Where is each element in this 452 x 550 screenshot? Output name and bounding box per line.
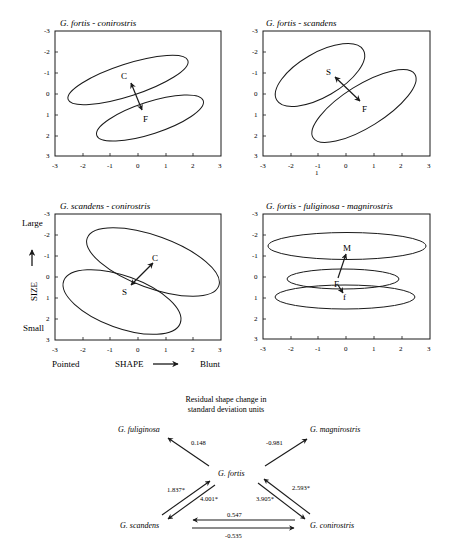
svg-text:-3: -3 — [44, 210, 50, 218]
plot-frame — [263, 31, 430, 156]
marker-label-f: F — [143, 114, 148, 124]
svg-text:1: 1 — [46, 111, 50, 119]
species-fortis: G. fortis — [218, 469, 245, 478]
svg-text:3: 3 — [254, 152, 258, 160]
svg-text:-3: -3 — [252, 210, 258, 218]
svg-text:-3: -3 — [52, 346, 58, 354]
panel-scandens-conirostris: G. scandens - conirostris -3 -2 -1 0 1 2… — [22, 0, 228, 369]
plot-frame — [55, 214, 221, 340]
svg-text:-1: -1 — [107, 346, 113, 354]
marker-label-s: S — [326, 67, 331, 77]
marker-label-f: F — [362, 104, 367, 114]
diagram-title-line2: standard deviation units — [188, 405, 264, 414]
y-axis-ticks: -3 -2 -1 0 1 2 3 — [252, 27, 258, 160]
svg-text:3: 3 — [254, 335, 258, 343]
value-fortis-scandens: 4.001* — [200, 495, 218, 502]
species-conirostris: G. conirostris — [310, 521, 354, 530]
panel-fortis-conirostris: G. fortis - conirostris -3 -2 -1 0 1 2 3… — [44, 18, 222, 170]
svg-text:-1: -1 — [315, 345, 321, 353]
svg-text:0: 0 — [46, 273, 50, 281]
svg-text:0: 0 — [46, 90, 50, 98]
shift-arrow-to-m — [338, 254, 346, 278]
y-axis-ticks: -3 -2 -1 0 1 2 3 — [252, 210, 258, 343]
panel-fortis-fuliginosa-magnirostris: G. fortis - fuliginosa - magnirostris -3… — [252, 201, 431, 353]
value-fortis-conirostris: 3.905* — [256, 495, 274, 502]
svg-text:1: 1 — [372, 345, 376, 353]
svg-text:1: 1 — [164, 162, 168, 170]
shape-change-diagram: Residual shape change in standard deviat… — [118, 395, 360, 539]
species-fuliginosa: G. fuliginosa — [118, 425, 160, 434]
svg-text:0: 0 — [136, 162, 140, 170]
y-axis-ticks: -3 -2 -1 0 1 2 3 — [44, 210, 50, 344]
svg-text:-2: -2 — [252, 48, 258, 56]
svg-text:3: 3 — [218, 346, 222, 354]
svg-text:-3: -3 — [52, 162, 58, 170]
svg-text:3: 3 — [427, 345, 431, 353]
value-scandens-fortis: 1.837* — [167, 486, 185, 493]
svg-text:1: 1 — [372, 162, 376, 170]
y-label-small: Small — [23, 323, 45, 333]
svg-text:-1: -1 — [252, 69, 258, 77]
svg-text:0: 0 — [344, 162, 348, 170]
svg-text:-2: -2 — [44, 48, 50, 56]
ellipse-fortis — [287, 269, 399, 289]
svg-text:-1: -1 — [107, 162, 113, 170]
ellipse-conirostris — [63, 45, 193, 114]
svg-text:3: 3 — [46, 152, 50, 160]
svg-text:3: 3 — [46, 336, 50, 344]
figure: G. fortis - conirostris -3 -2 -1 0 1 2 3… — [0, 0, 452, 550]
svg-text:-2: -2 — [252, 231, 258, 239]
svg-text:2: 2 — [399, 345, 403, 353]
svg-text:0: 0 — [344, 345, 348, 353]
svg-text:3: 3 — [427, 162, 431, 170]
svg-text:-1: -1 — [252, 252, 258, 260]
svg-text:-2: -2 — [80, 346, 86, 354]
svg-text:0: 0 — [136, 346, 140, 354]
x-axis-ticks: -3 -2 -1 0 1 2 3 — [52, 162, 222, 170]
y-axis-title: SIZE — [29, 282, 39, 302]
svg-text:-2: -2 — [288, 345, 294, 353]
svg-text:2: 2 — [254, 132, 258, 140]
svg-text:-3: -3 — [252, 27, 258, 35]
panel-title: G. fortis - conirostris — [60, 18, 137, 28]
ellipse-scandens — [55, 256, 189, 347]
species-scandens: G. scandens — [120, 521, 159, 530]
value-conirostris-scandens: 0.547 — [227, 511, 242, 518]
svg-text:1: 1 — [164, 346, 168, 354]
marker-label-fortis: F — [334, 279, 339, 289]
species-magnirostris: G. magnirostris — [310, 425, 360, 434]
svg-text:2: 2 — [46, 132, 50, 140]
marker-label-fuliginosa: f — [343, 292, 346, 302]
x-axis-ticks: -3 -2 -1 0 1 2 3 1 — [260, 162, 431, 177]
svg-text:2: 2 — [191, 346, 195, 354]
x-label-blunt: Blunt — [200, 359, 221, 369]
svg-text:0: 0 — [254, 90, 258, 98]
panel-title: G. scandens - conirostris — [60, 201, 151, 211]
svg-text:2: 2 — [46, 315, 50, 323]
svg-text:-2: -2 — [288, 162, 294, 170]
panel-fortis-scandens: G. fortis - scandens -3 -2 -1 0 1 2 3 -3… — [252, 18, 431, 177]
svg-text:2: 2 — [191, 162, 195, 170]
svg-text:-3: -3 — [260, 345, 266, 353]
ellipse-scandens — [266, 31, 375, 119]
x-axis-title: SHAPE — [115, 359, 144, 369]
svg-text:-3: -3 — [260, 162, 266, 170]
svg-text:-2: -2 — [80, 162, 86, 170]
svg-text:-3: -3 — [44, 27, 50, 35]
value-conirostris-fortis: 2.593* — [292, 484, 310, 491]
svg-text:1: 1 — [254, 294, 258, 302]
y-axis-ticks: -3 -2 -1 0 1 2 3 — [44, 27, 50, 160]
svg-text:-2: -2 — [44, 231, 50, 239]
value-scandens-conirostris: -0.535 — [225, 532, 242, 539]
value-fortis-magnirostris: -0.981 — [266, 439, 283, 446]
ellipse-fortis — [92, 85, 208, 150]
value-fortis-fuliginosa: 0.148 — [191, 439, 206, 446]
svg-text:2: 2 — [399, 162, 403, 170]
svg-text:0: 0 — [254, 273, 258, 281]
svg-text:1: 1 — [46, 294, 50, 302]
marker-label-c: C — [152, 253, 158, 263]
marker-label-s: S — [122, 287, 127, 297]
y-label-large: Large — [22, 218, 43, 228]
svg-text:2: 2 — [254, 315, 258, 323]
panel-title: G. fortis - fuliginosa - magnirostris — [266, 201, 393, 211]
